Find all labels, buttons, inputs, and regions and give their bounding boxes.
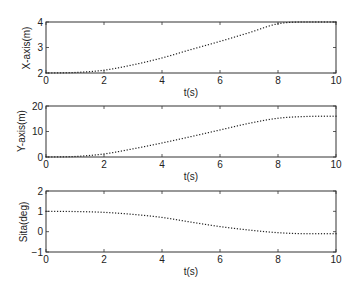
y-tick-label: −1 [32,247,44,258]
x-axis-label: t(s) [184,87,198,98]
x-tick-label: 2 [101,75,107,86]
x-tick-label: 0 [43,159,49,170]
panel-x-axis: 234 0246810 X-axis(m) t(s) [21,17,342,99]
y-ticks: −1012 [32,186,336,258]
y-tick-label: 2 [37,186,43,197]
x-tick-label: 6 [217,75,223,86]
x-ticks: 0246810 [43,22,342,86]
y-ticks: 01020 [32,101,336,163]
y-tick-label: 10 [32,126,44,137]
y-tick-label: 20 [32,101,44,112]
y-ticks: 234 [37,17,336,79]
x-tick-label: 2 [101,254,107,265]
data-series [45,211,336,235]
y-axis-label: Y-axis(m) [16,110,27,152]
x-axis-label: t(s) [184,266,198,277]
x-tick-label: 10 [330,75,342,86]
figure: 234 0246810 X-axis(m) t(s) 01020 0246810… [0,0,359,292]
x-tick-label: 4 [159,254,165,265]
plot-area [46,22,336,73]
plot-area [46,191,336,252]
x-tick-label: 4 [159,159,165,170]
y-tick-label: 1 [37,206,43,217]
x-tick-label: 8 [275,159,281,170]
x-tick-label: 6 [217,159,223,170]
x-ticks: 0246810 [43,191,342,265]
data-series [45,21,336,73]
x-tick-label: 8 [275,75,281,86]
y-axis-label: Sita(deg) [18,202,29,243]
panel-y-axis: 01020 0246810 Y-axis(m) t(s) [16,101,342,183]
x-ticks: 0246810 [43,106,342,170]
data-series [45,116,336,158]
panel-sita: −1012 0246810 Sita(deg) t(s) [18,186,342,278]
y-axis-label: X-axis(m) [21,27,32,70]
x-axis-label: t(s) [184,171,198,182]
x-tick-label: 8 [275,254,281,265]
x-tick-label: 6 [217,254,223,265]
y-tick-label: 3 [37,42,43,53]
x-tick-label: 10 [330,254,342,265]
x-tick-label: 10 [330,159,342,170]
x-tick-label: 2 [101,159,107,170]
y-tick-label: 4 [37,17,43,28]
plot-area [46,106,336,157]
x-tick-label: 4 [159,75,165,86]
y-tick-label: 0 [37,226,43,237]
x-tick-label: 0 [43,75,49,86]
x-tick-label: 0 [43,254,49,265]
